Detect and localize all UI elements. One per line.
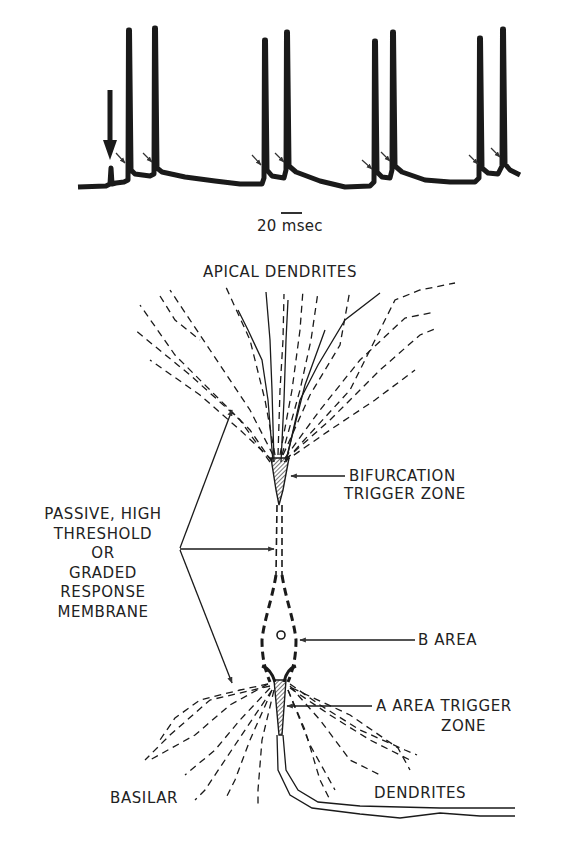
- figure-canvas: [0, 0, 582, 846]
- dendrites-label: DENDRITES: [374, 784, 466, 802]
- passive-label-line3: OR: [28, 544, 178, 564]
- apical-trunk: [276, 505, 282, 575]
- bifurcation-trigger-zone: [271, 458, 289, 505]
- a-area-label-line2: ZONE: [441, 717, 486, 735]
- b-area-label: B AREA: [418, 631, 477, 649]
- nucleus: [277, 631, 285, 639]
- apical-dendrites-label: APICAL DENDRITES: [203, 263, 357, 281]
- basilar-label: BASILAR: [110, 789, 178, 807]
- scale-bar-label: 20 msec: [257, 217, 323, 235]
- voltage-trace: [78, 28, 520, 187]
- bifurcation-label-line2: TRIGGER ZONE: [344, 485, 466, 503]
- axon: [277, 735, 515, 818]
- passive-label-line5: RESPONSE: [28, 583, 178, 603]
- apical-dendrites: [135, 283, 455, 462]
- passive-arrow-lower: [180, 550, 232, 683]
- a-area-trigger-zone: [274, 680, 286, 735]
- soma: [262, 575, 296, 682]
- passive-label-line1: PASSIVE, HIGH: [28, 505, 178, 525]
- bifurcation-label-line1: BIFURCATION: [349, 467, 456, 485]
- prepotential-arrows: [116, 148, 500, 169]
- passive-membrane-label: PASSIVE, HIGH THRESHOLD OR GRADED RESPON…: [28, 505, 178, 622]
- stimulus-arrow-icon: [103, 90, 117, 160]
- passive-label-line4: GRADED: [28, 564, 178, 584]
- passive-label-line2: THRESHOLD: [28, 525, 178, 545]
- passive-label-line6: MEMBRANE: [28, 603, 178, 623]
- label-arrows: [180, 410, 415, 706]
- passive-arrow-upper: [180, 410, 232, 548]
- trace-baseline: [78, 28, 520, 187]
- a-area-label-line1: A AREA TRIGGER: [376, 697, 512, 715]
